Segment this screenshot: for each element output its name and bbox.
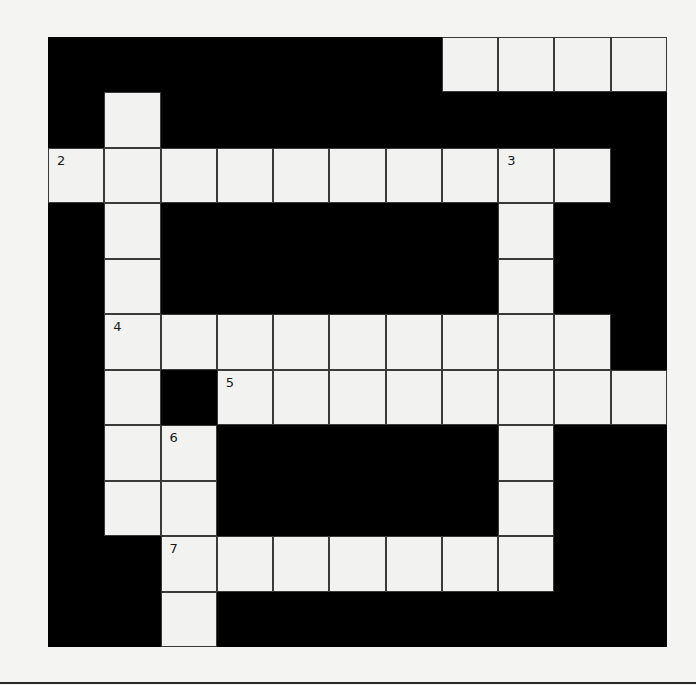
- black-block: [498, 92, 554, 147]
- black-block: [611, 481, 667, 536]
- crossword-cell[interactable]: [498, 536, 554, 591]
- crossword-cell[interactable]: [329, 536, 385, 591]
- crossword-cell[interactable]: [611, 370, 667, 425]
- black-block: [217, 425, 273, 480]
- crossword-page: 234567: [0, 0, 696, 685]
- black-block: [498, 592, 554, 647]
- black-block: [104, 37, 160, 92]
- crossword-cell[interactable]: 4: [104, 314, 160, 369]
- crossword-cell[interactable]: 5: [217, 370, 273, 425]
- crossword-cell[interactable]: [217, 148, 273, 203]
- crossword-cell[interactable]: [329, 314, 385, 369]
- black-block: [273, 425, 329, 480]
- crossword-cell[interactable]: [104, 425, 160, 480]
- crossword-cell[interactable]: [329, 148, 385, 203]
- crossword-cell[interactable]: [442, 314, 498, 369]
- black-block: [386, 203, 442, 258]
- crossword-cell[interactable]: [498, 37, 554, 92]
- black-block: [554, 259, 610, 314]
- black-block: [554, 592, 610, 647]
- black-block: [442, 259, 498, 314]
- crossword-cell[interactable]: [273, 370, 329, 425]
- crossword-cell[interactable]: [273, 148, 329, 203]
- black-block: [386, 481, 442, 536]
- crossword-cell[interactable]: [554, 148, 610, 203]
- crossword-cell[interactable]: [498, 203, 554, 258]
- black-block: [161, 37, 217, 92]
- black-block: [611, 148, 667, 203]
- crossword-cell[interactable]: [386, 536, 442, 591]
- black-block: [48, 203, 104, 258]
- black-block: [217, 259, 273, 314]
- crossword-cell[interactable]: [554, 37, 610, 92]
- crossword-cell[interactable]: [498, 425, 554, 480]
- crossword-cell[interactable]: [104, 259, 160, 314]
- crossword-cell[interactable]: [386, 314, 442, 369]
- crossword-cell[interactable]: [386, 148, 442, 203]
- crossword-cell[interactable]: [217, 536, 273, 591]
- black-block: [329, 592, 385, 647]
- black-block: [161, 259, 217, 314]
- crossword-cell[interactable]: [104, 148, 160, 203]
- black-block: [273, 92, 329, 147]
- black-block: [329, 259, 385, 314]
- crossword-cell[interactable]: 7: [161, 536, 217, 591]
- black-block: [217, 37, 273, 92]
- black-block: [273, 259, 329, 314]
- clue-number: 3: [507, 154, 515, 167]
- black-block: [273, 37, 329, 92]
- black-block: [104, 592, 160, 647]
- crossword-cell[interactable]: 3: [498, 148, 554, 203]
- crossword-cell[interactable]: [104, 92, 160, 147]
- black-block: [48, 314, 104, 369]
- crossword-cell[interactable]: [498, 314, 554, 369]
- crossword-cell[interactable]: [273, 536, 329, 591]
- page-divider-line: [0, 682, 696, 684]
- black-block: [273, 203, 329, 258]
- black-block: [611, 592, 667, 647]
- black-block: [442, 592, 498, 647]
- black-block: [48, 370, 104, 425]
- black-block: [48, 37, 104, 92]
- black-block: [273, 481, 329, 536]
- black-block: [48, 592, 104, 647]
- black-block: [329, 92, 385, 147]
- crossword-grid: 234567: [48, 37, 667, 647]
- black-block: [386, 259, 442, 314]
- black-block: [611, 314, 667, 369]
- crossword-cell[interactable]: [442, 370, 498, 425]
- crossword-cell[interactable]: [217, 314, 273, 369]
- black-block: [217, 481, 273, 536]
- clue-number: 6: [170, 431, 178, 444]
- crossword-cell[interactable]: [498, 481, 554, 536]
- crossword-cell[interactable]: [161, 314, 217, 369]
- crossword-cell[interactable]: [442, 536, 498, 591]
- black-block: [329, 203, 385, 258]
- crossword-cell[interactable]: [104, 370, 160, 425]
- crossword-cell[interactable]: [161, 481, 217, 536]
- crossword-cell[interactable]: [554, 314, 610, 369]
- crossword-cell[interactable]: [554, 370, 610, 425]
- clue-number: 5: [226, 376, 234, 389]
- crossword-cell[interactable]: [104, 203, 160, 258]
- crossword-cell[interactable]: [104, 481, 160, 536]
- black-block: [442, 92, 498, 147]
- crossword-cell[interactable]: [386, 370, 442, 425]
- crossword-cell[interactable]: 2: [48, 148, 104, 203]
- crossword-cell[interactable]: [442, 148, 498, 203]
- black-block: [217, 592, 273, 647]
- black-block: [554, 481, 610, 536]
- crossword-cell[interactable]: [611, 37, 667, 92]
- crossword-cell[interactable]: 6: [161, 425, 217, 480]
- crossword-cell[interactable]: [442, 37, 498, 92]
- crossword-cell[interactable]: [273, 314, 329, 369]
- crossword-cell[interactable]: [329, 370, 385, 425]
- crossword-cell[interactable]: [498, 259, 554, 314]
- crossword-cell[interactable]: [161, 148, 217, 203]
- black-block: [611, 536, 667, 591]
- black-block: [329, 425, 385, 480]
- black-block: [442, 481, 498, 536]
- black-block: [48, 92, 104, 147]
- crossword-cell[interactable]: [498, 370, 554, 425]
- crossword-cell[interactable]: [161, 592, 217, 647]
